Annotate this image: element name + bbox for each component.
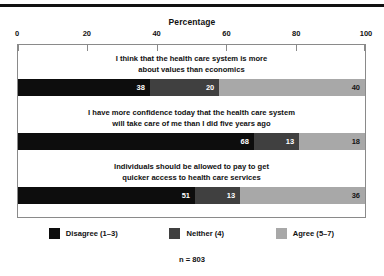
legend-label: Neither (4) (186, 229, 224, 238)
statement-label: Individuals should be allowed to pay to … (18, 159, 365, 187)
statement-label-line: about values than economics (22, 65, 361, 76)
sample-size-footnote: n = 803 (0, 255, 384, 264)
x-axis-tick-label: 40 (152, 29, 160, 38)
legend-item-agree: Agree (5–7) (276, 228, 334, 239)
top-divider-rule (0, 4, 384, 7)
bar-group: Individuals should be allowed to pay to … (18, 159, 365, 204)
chart-title: Percentage (0, 17, 384, 27)
statement-label-line: quicker access to health care services (22, 173, 361, 184)
bar-segment-disagree: 68 (18, 133, 254, 150)
bar-group: I think that the health care system is m… (18, 51, 365, 96)
legend-label: Agree (5–7) (293, 229, 334, 238)
x-axis-tick-labels: 0 20 40 60 80 100 (17, 29, 366, 41)
x-axis-tick-label: 20 (83, 29, 91, 38)
stacked-bar: 51 13 36 (18, 187, 365, 204)
legend-item-disagree: Disagree (1–3) (49, 228, 118, 239)
bar-segment-agree: 40 (219, 79, 365, 96)
bar-group: I have more confidence today that the he… (18, 105, 365, 150)
statement-label: I have more confidence today that the he… (18, 105, 365, 133)
bar-segment-neither: 20 (150, 79, 219, 96)
bar-segment-neither: 13 (254, 133, 299, 150)
legend-item-neither: Neither (4) (169, 228, 224, 239)
group-spacer (18, 96, 365, 105)
legend: Disagree (1–3) Neither (4) Agree (5–7) (17, 228, 366, 239)
stacked-bar: 38 20 40 (18, 79, 365, 96)
plot-area: I think that the health care system is m… (17, 44, 366, 218)
x-axis-tick-label: 0 (15, 29, 19, 38)
statement-label-line: I think that the health care system is m… (22, 54, 361, 65)
group-spacer (18, 150, 365, 159)
bar-groups: I think that the health care system is m… (18, 45, 365, 217)
bar-segment-agree: 18 (299, 133, 365, 150)
statement-label: I think that the health care system is m… (18, 51, 365, 79)
x-axis-tick-label: 60 (222, 29, 230, 38)
bar-segment-disagree: 38 (18, 79, 150, 96)
bar-segment-agree: 36 (240, 187, 365, 204)
legend-label: Disagree (1–3) (66, 229, 118, 238)
bar-segment-disagree: 51 (18, 187, 195, 204)
legend-swatch-agree (276, 228, 287, 239)
legend-swatch-disagree (49, 228, 60, 239)
x-axis-tick-label: 80 (292, 29, 300, 38)
statement-label-line: will take care of me than I did five yea… (22, 119, 361, 130)
statement-label-line: Individuals should be allowed to pay to … (22, 162, 361, 173)
bar-segment-neither: 13 (195, 187, 240, 204)
legend-swatch-neither (169, 228, 180, 239)
statement-label-line: I have more confidence today that the he… (22, 108, 361, 119)
x-axis-tick-label: 100 (360, 29, 373, 38)
stacked-bar: 68 13 18 (18, 133, 365, 150)
